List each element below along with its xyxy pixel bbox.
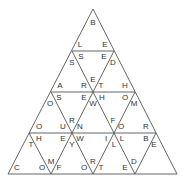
tile-letter: H: [121, 82, 129, 90]
tile-letter: S: [55, 94, 63, 102]
tile-letter: L: [76, 41, 84, 49]
tile-letter: U: [59, 123, 67, 131]
tile-letter: E: [80, 94, 88, 102]
tile-letter: Y: [68, 141, 76, 149]
tile-letter: R: [80, 82, 88, 90]
tile-letter: O: [35, 123, 43, 131]
tile-letter: F: [109, 117, 117, 125]
tile-letter: E: [121, 164, 129, 172]
tile-letter: E: [100, 53, 108, 61]
tile-letter: W: [76, 135, 84, 143]
tile-letter: H: [35, 135, 43, 143]
tile-letter: O: [80, 164, 88, 172]
tile-letter: S: [77, 53, 85, 61]
tile-letter: D: [109, 59, 117, 67]
tile-letter: O: [117, 123, 125, 131]
tile-letter: M: [130, 100, 138, 108]
tile-letter: B: [89, 19, 97, 27]
tile-letter: C: [13, 164, 21, 172]
tile-letter: R: [68, 117, 76, 125]
tile-letter: O: [46, 100, 54, 108]
tile-letter: O: [38, 164, 46, 172]
puzzle-grid: [0, 0, 184, 180]
tile-letter: A: [56, 82, 64, 90]
tile-letter: T: [97, 82, 105, 90]
tile-letter: N: [76, 123, 84, 131]
tile-letter: H: [98, 94, 106, 102]
tile-letter: T: [27, 141, 35, 149]
tile-letter: R: [142, 123, 150, 131]
tile-letter: R: [89, 158, 97, 166]
tile-letter: E: [89, 76, 97, 84]
tile-letter: E: [150, 141, 158, 149]
tile-letter: E: [59, 135, 67, 143]
tile-letter: M: [47, 158, 55, 166]
tile-letter: L: [118, 135, 126, 143]
tile-letter: W: [89, 100, 97, 108]
tile-letter: I: [102, 135, 110, 143]
tile-letter: F: [55, 164, 63, 172]
tile-letter: E: [101, 41, 109, 49]
tile-letter: T: [97, 164, 105, 172]
tile-letter: O: [121, 94, 129, 102]
tile-letter: D: [130, 158, 138, 166]
tile-letter: B: [142, 135, 150, 143]
tile-letter: L: [110, 141, 118, 149]
tile-letter: S: [68, 59, 76, 67]
